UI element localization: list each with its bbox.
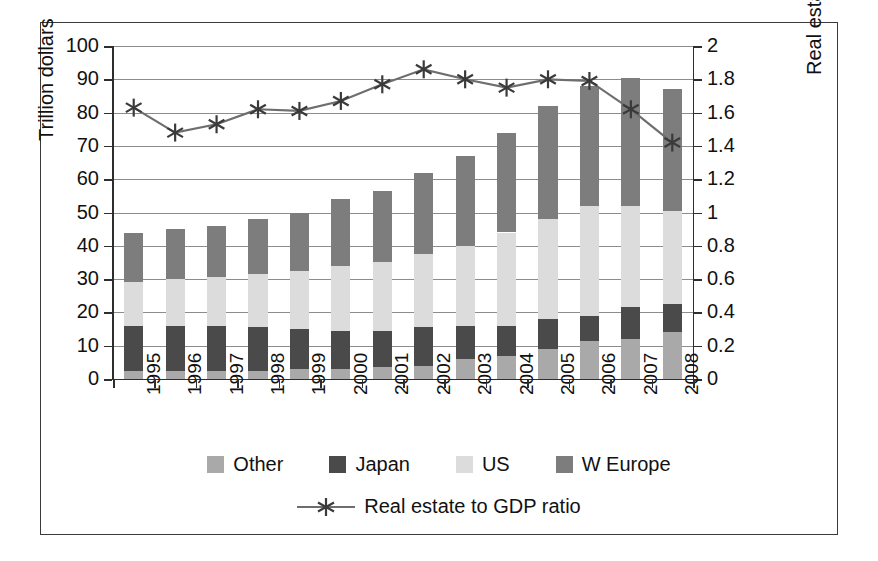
- bar-segment-japan[interactable]: [456, 326, 475, 359]
- bar-segment-us[interactable]: [580, 206, 599, 316]
- bar-segment-us[interactable]: [166, 279, 185, 326]
- bar-segment-w-europe[interactable]: [166, 229, 185, 279]
- bar-segment-other[interactable]: [663, 332, 682, 379]
- bar-segment-japan[interactable]: [166, 326, 185, 371]
- y-tick-left: [104, 113, 112, 115]
- bar-stack[interactable]: [663, 46, 682, 379]
- gridline: [113, 213, 693, 214]
- bar-stack[interactable]: [580, 46, 599, 379]
- bar-segment-other[interactable]: [166, 371, 185, 379]
- bar-segment-japan[interactable]: [373, 331, 392, 368]
- bar-segment-w-europe[interactable]: [331, 199, 350, 266]
- y-tick-label-right: 1.6: [707, 102, 735, 122]
- bar-stack[interactable]: [124, 46, 143, 379]
- bar-segment-us[interactable]: [456, 246, 475, 326]
- bar-segment-other[interactable]: [414, 366, 433, 379]
- y-tick-label-left: 60: [77, 168, 99, 188]
- bar-segment-w-europe[interactable]: [621, 78, 640, 206]
- bar-segment-w-europe[interactable]: [248, 219, 267, 274]
- bar-stack[interactable]: [290, 46, 309, 379]
- x-tick: [569, 379, 571, 388]
- y-tick-right: [694, 279, 702, 281]
- bar-segment-w-europe[interactable]: [373, 191, 392, 263]
- bar-segment-japan[interactable]: [580, 316, 599, 341]
- bar-segment-w-europe[interactable]: [538, 106, 557, 219]
- bar-segment-w-europe[interactable]: [456, 156, 475, 246]
- bar-segment-other[interactable]: [497, 356, 516, 379]
- y-tick-right: [694, 113, 702, 115]
- y-tick-left: [104, 346, 112, 348]
- bar-segment-us[interactable]: [373, 262, 392, 330]
- bar-segment-us[interactable]: [414, 254, 433, 327]
- bar-segment-japan[interactable]: [248, 327, 267, 370]
- bar-segment-us[interactable]: [497, 233, 516, 326]
- y-tick-label-left: 100: [66, 35, 99, 55]
- bar-stack[interactable]: [621, 46, 640, 379]
- x-axis-label: 2004: [516, 353, 538, 395]
- gridline: [113, 146, 693, 147]
- bar-segment-other[interactable]: [373, 367, 392, 379]
- legend-swatch-icon: [207, 456, 224, 473]
- y-tick-label-right: 0: [707, 368, 718, 388]
- bar-segment-us[interactable]: [663, 211, 682, 304]
- bar-segment-w-europe[interactable]: [124, 233, 143, 283]
- gridline: [113, 312, 693, 313]
- x-tick: [320, 379, 322, 388]
- bar-segment-other[interactable]: [580, 341, 599, 379]
- bar-segment-japan[interactable]: [414, 327, 433, 365]
- bar-segment-us[interactable]: [621, 206, 640, 308]
- y-tick-right: [694, 346, 702, 348]
- bar-segment-us[interactable]: [538, 219, 557, 319]
- bar-stack[interactable]: [373, 46, 392, 379]
- bar-stack[interactable]: [414, 46, 433, 379]
- legend-item-w-europe[interactable]: W Europe: [556, 453, 671, 476]
- bar-stack[interactable]: [538, 46, 557, 379]
- bar-segment-other[interactable]: [456, 359, 475, 379]
- bar-segment-w-europe[interactable]: [290, 213, 309, 271]
- bar-stack[interactable]: [207, 46, 226, 379]
- bar-segment-other[interactable]: [124, 371, 143, 379]
- bar-segment-japan[interactable]: [538, 319, 557, 349]
- bar-segment-japan[interactable]: [124, 326, 143, 371]
- bar-segment-w-europe[interactable]: [497, 133, 516, 233]
- bar-segment-w-europe[interactable]: [663, 89, 682, 211]
- bar-segment-us[interactable]: [124, 282, 143, 325]
- bar-segment-japan[interactable]: [663, 304, 682, 332]
- x-tick: [237, 379, 239, 388]
- bar-segment-japan[interactable]: [290, 329, 309, 369]
- bar-segment-other[interactable]: [621, 339, 640, 379]
- bar-segment-us[interactable]: [331, 266, 350, 331]
- bar-segment-other[interactable]: [538, 349, 557, 379]
- bar-segment-w-europe[interactable]: [207, 226, 226, 278]
- bar-segment-japan[interactable]: [331, 331, 350, 369]
- legend-item-line[interactable]: Real estate to GDP ratio: [297, 495, 580, 518]
- bar-segment-japan[interactable]: [207, 326, 226, 371]
- y-tick-label-left: 40: [77, 235, 99, 255]
- bar-segment-other[interactable]: [248, 371, 267, 379]
- y-tick-label-right: 1.2: [707, 168, 735, 188]
- bar-stack[interactable]: [497, 46, 516, 379]
- bar-segment-w-europe[interactable]: [414, 173, 433, 255]
- bar-segment-other[interactable]: [207, 371, 226, 379]
- bar-segment-japan[interactable]: [497, 326, 516, 356]
- bar-stack[interactable]: [248, 46, 267, 379]
- x-tick: [113, 379, 115, 388]
- legend-item-japan[interactable]: Japan: [329, 453, 410, 476]
- legend-item-us[interactable]: US: [456, 453, 510, 476]
- x-axis-label: 1995: [143, 353, 165, 395]
- y-tick-right: [694, 146, 702, 148]
- bar-segment-us[interactable]: [248, 274, 267, 327]
- bar-segment-japan[interactable]: [621, 307, 640, 339]
- bar-stack[interactable]: [331, 46, 350, 379]
- bar-segment-other[interactable]: [290, 369, 309, 379]
- y-tick-right: [694, 312, 702, 314]
- bar-stack[interactable]: [166, 46, 185, 379]
- bar-segment-us[interactable]: [207, 277, 226, 325]
- x-axis-label: 2005: [557, 353, 579, 395]
- legend-item-other[interactable]: Other: [207, 453, 283, 476]
- bar-segment-w-europe[interactable]: [580, 86, 599, 206]
- y-tick-label-right: 2: [707, 35, 718, 55]
- bar-segment-us[interactable]: [290, 271, 309, 329]
- bar-stack[interactable]: [456, 46, 475, 379]
- bar-segment-other[interactable]: [331, 369, 350, 379]
